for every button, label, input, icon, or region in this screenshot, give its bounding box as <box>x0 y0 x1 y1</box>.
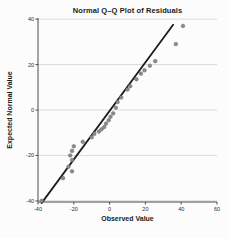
data-point <box>70 149 74 153</box>
y-tick-label: -40 <box>26 198 34 204</box>
y-tick-label: -20 <box>26 152 34 158</box>
x-axis-ticks: -40-200204060 <box>34 202 220 212</box>
y-tick-label: 40 <box>28 16 34 22</box>
x-tick-label: 20 <box>142 206 148 212</box>
data-point <box>68 154 72 158</box>
data-point <box>70 170 74 174</box>
y-axis-ticks: -40-2002040 <box>26 16 38 204</box>
data-point <box>104 122 108 126</box>
data-point <box>119 96 123 100</box>
data-point <box>102 125 106 129</box>
data-point <box>61 176 65 180</box>
data-point <box>114 106 118 110</box>
data-point <box>135 78 139 82</box>
gridlines <box>38 19 217 201</box>
x-tick-label: -40 <box>34 206 42 212</box>
data-point <box>139 72 143 76</box>
x-tick-label: 60 <box>214 206 220 212</box>
data-point <box>148 64 152 68</box>
y-tick-label: 0 <box>31 107 34 113</box>
data-point <box>40 199 44 203</box>
data-point <box>128 84 132 88</box>
qq-plot-canvas: -40-200204060-40-2002040 <box>0 0 228 238</box>
data-point <box>116 100 120 104</box>
qq-plot-figure: Normal Q–Q Plot of Residuals Expected No… <box>0 0 228 238</box>
data-point <box>90 135 94 139</box>
data-point <box>181 24 185 28</box>
data-point <box>67 165 71 169</box>
x-tick-label: -20 <box>70 206 78 212</box>
data-point <box>143 68 147 72</box>
data-point <box>107 118 111 122</box>
trend-line <box>42 25 174 203</box>
data-point <box>72 145 76 149</box>
y-tick-label: 20 <box>28 62 34 68</box>
data-point <box>93 132 97 136</box>
data-point <box>109 115 113 119</box>
data-point <box>111 112 115 116</box>
data-point <box>126 88 130 92</box>
x-axis-label: Observed Value <box>38 215 217 222</box>
data-point <box>70 158 74 162</box>
data-point <box>81 140 85 144</box>
x-tick-label: 0 <box>108 206 111 212</box>
data-point <box>174 42 178 46</box>
data-point <box>153 59 157 63</box>
x-tick-label: 40 <box>178 206 184 212</box>
